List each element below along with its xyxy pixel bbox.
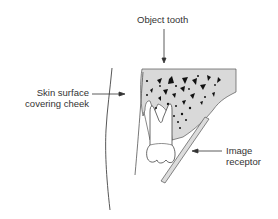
label-skin-surface-line1: Skin surface — [16, 87, 89, 98]
arrowhead-right-icon — [119, 92, 125, 96]
gingiva-outline — [135, 72, 143, 175]
dental-diagram — [0, 0, 278, 219]
arrowhead-left-icon — [192, 149, 198, 153]
arrowhead-down-icon — [162, 58, 166, 63]
tooth-icon — [147, 104, 175, 163]
socket-outline — [144, 112, 150, 140]
label-object-tooth-text: Object tooth — [137, 14, 188, 25]
label-object-tooth: Object tooth — [137, 14, 188, 25]
label-skin-surface-line2: covering cheek — [16, 98, 89, 109]
label-skin-surface: Skin surface covering cheek — [16, 87, 89, 109]
skin-surface-line — [106, 68, 112, 210]
label-image-receptor: Image receptor — [226, 145, 261, 167]
label-image-receptor-line1: Image — [226, 145, 261, 156]
label-image-receptor-line2: receptor — [226, 156, 261, 167]
